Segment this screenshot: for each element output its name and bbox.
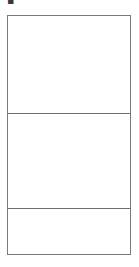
table-row[interactable] — [8, 114, 130, 209]
table — [7, 15, 131, 255]
page-canvas: ▪ — [0, 0, 139, 267]
table-row[interactable] — [8, 209, 130, 254]
table-row[interactable] — [8, 16, 130, 114]
clipped-glyph-icon: ▪ — [7, 0, 16, 5]
